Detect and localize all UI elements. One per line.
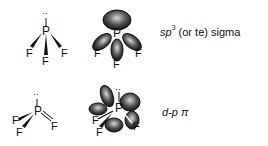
orbital-atom-p-1: P [113, 26, 121, 40]
atom-f-1b: F [42, 55, 49, 67]
atom-f-2c: F [51, 120, 58, 132]
orbital-lone-pair-2: ·· [115, 84, 121, 94]
orbital-atom-f-1b: F [113, 58, 120, 70]
atom-f-1c: F [61, 47, 68, 59]
orbital-atom-f-2c: F [133, 120, 140, 132]
orbital-atom-p-2: P [115, 101, 123, 115]
atom-f-1a: F [26, 47, 33, 59]
lone-pair-2: ·· [33, 89, 39, 99]
lone-pair-1: ·· [42, 8, 48, 18]
atom-f-2a: F [12, 114, 19, 126]
label-pi: d-p π [162, 106, 188, 118]
orbital-atom-f-1a: F [94, 47, 101, 59]
atom-p-2: P [34, 104, 42, 118]
label-sigma: sp3 (or te) sigma [160, 26, 240, 38]
orbital-atom-f-1c: F [135, 47, 142, 59]
atom-p-1: P [42, 24, 50, 38]
orbital-atom-f-2a: F [92, 114, 99, 126]
atom-f-2b: F [16, 126, 23, 138]
orbital-atom-f-2b: F [96, 126, 103, 138]
